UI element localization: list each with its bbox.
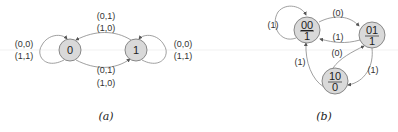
edge-label-top-1: (0,1) (97, 11, 116, 21)
label-10-to-00: (1) (295, 57, 306, 67)
label-01-to-10: (1) (368, 65, 379, 75)
edge-label-bottom-2: (1,0) (97, 78, 116, 88)
node-01-output: 1 (369, 35, 375, 47)
caption-a: (a) (98, 110, 113, 123)
label-10-to-01: (0) (332, 48, 343, 58)
label-self-loop-00: (1) (268, 20, 279, 30)
label-00-to-01: (0) (333, 8, 344, 18)
node-01: 01 1 (359, 22, 385, 48)
node-10: 10 0 (322, 68, 348, 94)
node-1-label: 1 (133, 44, 139, 56)
node-10-output: 0 (332, 81, 338, 93)
diagram-a: 0 1 (0,1) (1,0) (0,1) (1,0) (0,0) (1,1) … (15, 11, 193, 123)
label-01-to-00: (1) (333, 32, 344, 42)
node-0-label: 0 (67, 44, 73, 56)
node-1: 1 (125, 39, 147, 61)
edge-label-bottom-1: (0,1) (97, 65, 116, 75)
node-00-output: 1 (304, 30, 310, 42)
loop-0-label-2: (1,1) (15, 51, 34, 61)
loop-0-label-1: (0,0) (15, 39, 34, 49)
edge-00-to-01 (319, 17, 359, 26)
loop-1-label-2: (1,1) (174, 51, 193, 61)
edge-1-to-0 (76, 33, 131, 41)
node-00: 00 1 (294, 17, 320, 43)
state-diagrams: 0 1 (0,1) (1,0) (0,1) (1,0) (0,0) (1,1) … (0, 0, 398, 132)
loop-1-label-1: (0,0) (174, 39, 193, 49)
node-0: 0 (59, 39, 81, 61)
edge-label-top-2: (1,0) (97, 23, 116, 33)
caption-b: (b) (316, 110, 332, 123)
diagram-b: 00 1 01 1 10 0 (1) (0) (1) (0) (1) (1) (… (268, 6, 386, 123)
